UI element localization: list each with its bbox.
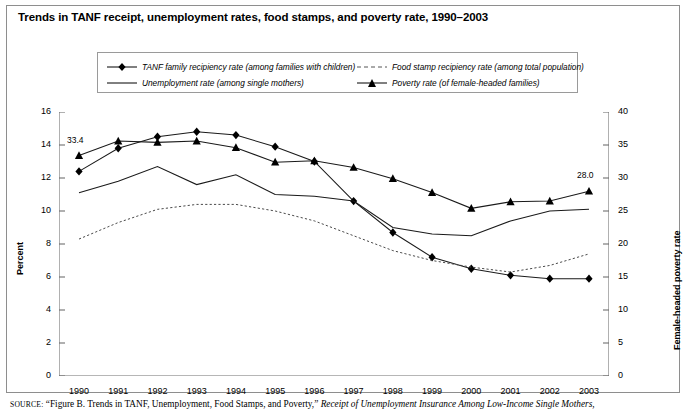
x-axis-tick-label: 1996 [301, 386, 327, 396]
y-axis-tick-label-left: 0 [21, 370, 51, 380]
poverty-2003-value: 28.0 [577, 170, 594, 180]
series-marker-diamond [468, 265, 475, 273]
chart-svg [59, 112, 609, 376]
x-axis-tick-label: 1990 [66, 386, 92, 396]
series-marker-diamond [272, 142, 279, 150]
y-axis-tick-label-left: 2 [21, 337, 51, 347]
x-axis-tick-label: 1991 [105, 386, 131, 396]
y-axis-tick-label-right: 10 [618, 304, 628, 314]
y-axis-tick-label-left: 16 [21, 106, 51, 116]
y-axis-tick-label-left: 4 [21, 304, 51, 314]
series-marker-triangle [585, 187, 593, 195]
y-axis-tick-label-right: 0 [618, 370, 623, 380]
series-marker-triangle [114, 137, 122, 145]
series-marker-triangle [428, 188, 436, 196]
y-axis-tick-label-left: 12 [21, 172, 51, 182]
series-marker-diamond [193, 128, 200, 136]
series-marker-diamond [546, 274, 553, 282]
y-axis-tick-label-right: 20 [618, 238, 628, 248]
y-axis-tick-label-right: 35 [618, 139, 628, 149]
x-axis-tick-label: 1998 [380, 386, 406, 396]
source-title-italic: Receipt of Unemployment Insurance Among … [321, 399, 595, 409]
legend-key-triangle-line-icon [354, 76, 390, 90]
y-axis-tick-label-left: 8 [21, 238, 51, 248]
y-axis-tick-label-right: 5 [618, 337, 623, 347]
source-caption: SOURCE: “Figure B. Trends in TANF, Unemp… [10, 399, 680, 411]
figure-container: Trends in TANF receipt, unemployment rat… [0, 0, 686, 419]
series-marker-diamond [585, 274, 592, 282]
series-marker-triangle [75, 151, 83, 159]
series-line [79, 132, 589, 279]
source-text: “Figure B. Trends in TANF, Unemployment,… [43, 399, 320, 409]
y-axis-tick-label-right: 25 [618, 205, 628, 215]
y-axis-tick-label-left: 10 [21, 205, 51, 215]
chart-series [75, 128, 593, 283]
poverty-1990-value: 33.4 [67, 135, 84, 145]
x-axis-tick-label: 2001 [498, 386, 524, 396]
chart-ticks [59, 112, 609, 376]
chart-axes [59, 112, 609, 376]
y-axis-tick-label-right: 40 [618, 106, 628, 116]
legend-label-unemployment: Unemployment rate (among single mothers) [142, 76, 304, 90]
x-axis-tick-label: 2003 [576, 386, 602, 396]
series-marker-diamond [75, 167, 82, 175]
series-marker-diamond [507, 271, 514, 279]
series-line [79, 166, 589, 235]
y-axis-tick-label-left: 6 [21, 271, 51, 281]
legend-label-food-stamp: Food stamp recipiency rate (among total … [392, 60, 584, 74]
series-marker-diamond [232, 131, 239, 139]
x-axis-tick-label: 1993 [184, 386, 210, 396]
x-axis-tick-label: 1999 [419, 386, 445, 396]
series-marker-diamond [389, 228, 396, 236]
legend-key-dashed-line-icon [354, 60, 390, 74]
legend-key-solid-line-icon [104, 76, 140, 90]
page-title: Trends in TANF receipt, unemployment rat… [18, 11, 488, 23]
x-axis-tick-label: 1994 [223, 386, 249, 396]
x-axis-tick-label: 2000 [458, 386, 484, 396]
y-axis-title-right: Female-headed poverty rate [672, 230, 682, 350]
x-axis-tick-label: 1997 [341, 386, 367, 396]
x-axis-tick-label: 2002 [537, 386, 563, 396]
chart-legend: TANF family recipiency rate (among famil… [97, 52, 578, 93]
x-axis-tick-label: 1992 [144, 386, 170, 396]
y-axis-tick-label-left: 14 [21, 139, 51, 149]
legend-key-diamond-line-icon [104, 60, 140, 74]
plot-area [59, 112, 609, 376]
x-axis-tick-label: 1995 [262, 386, 288, 396]
series-marker-triangle [193, 137, 201, 145]
series-line [79, 204, 589, 272]
y-axis-tick-label-right: 15 [618, 271, 628, 281]
series-marker-diamond [115, 144, 122, 152]
legend-label-poverty: Poverty rate (of female-headed families) [392, 76, 540, 90]
legend-label-tanf: TANF family recipiency rate (among famil… [142, 60, 355, 74]
source-label: SOURCE: [10, 400, 43, 409]
y-axis-tick-label-right: 30 [618, 172, 628, 182]
